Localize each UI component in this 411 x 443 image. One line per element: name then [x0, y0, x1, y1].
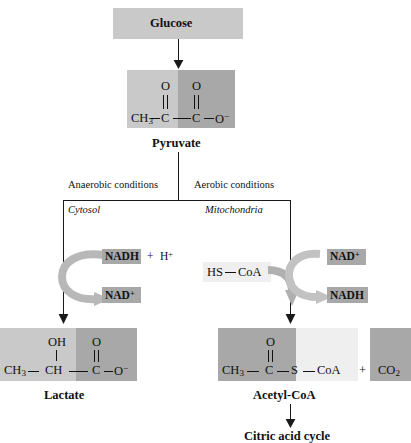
- co2-plus-sign: +: [359, 364, 366, 377]
- acetyl-coa-label: Acetyl-CoA: [253, 389, 315, 402]
- hs-coa-bond: [225, 272, 236, 273]
- nad-left-text: NAD: [105, 289, 130, 301]
- lactate-carboxylate-o: O−: [114, 364, 128, 377]
- pyruvate-c3: C: [192, 112, 200, 125]
- acetyl-coa-methyl-sub: 3: [239, 368, 244, 378]
- citric-acid-cycle-arrowhead: [285, 419, 296, 428]
- lactate-bond-2: [69, 371, 88, 372]
- left-plus-sign: +: [147, 251, 154, 263]
- pyruvate-c2: C: [161, 112, 169, 125]
- acetyl-coa-double-bond-b: [272, 350, 273, 362]
- lactate-o-top: O: [92, 336, 101, 349]
- anaerobic-conditions-label: Anaerobic conditions: [68, 180, 158, 191]
- lactate-c3: C: [92, 364, 100, 377]
- proton-charge: +: [168, 250, 173, 259]
- pyruvate-stem-line: [178, 152, 179, 200]
- glucose-label: Glucose: [150, 17, 192, 30]
- hs-coa-hs: HS: [207, 265, 223, 279]
- lactate-bond-1: [28, 371, 39, 372]
- pyruvate-o-charge: −: [224, 111, 229, 121]
- acetyl-coa-methyl: CH3: [222, 364, 244, 378]
- pyruvate-label: Pyruvate: [152, 137, 201, 150]
- lactate-double-bond-a: [94, 350, 95, 362]
- lactate-hydroxyl: OH: [48, 336, 66, 349]
- lactate-label: Lactate: [44, 389, 84, 402]
- acetyl-coa-bond-2: [277, 371, 289, 372]
- pyruvate-double-bond-right-b: [198, 95, 199, 109]
- pyruvate-double-bond-left-b: [167, 95, 168, 109]
- pyruvate-bond-3: [204, 118, 214, 119]
- proton-label: H+: [160, 251, 173, 263]
- cytosol-label: Cytosol: [68, 205, 100, 216]
- nad-left-label: NAD+: [105, 290, 135, 302]
- lactate-methyl-c: CH: [4, 363, 21, 377]
- pathway-diagram: Glucose O O CH3 C C O− Pyruvate Anaerobi…: [0, 0, 411, 443]
- lactate-c2: CH: [45, 364, 62, 377]
- lactate-methyl: CH3: [4, 364, 26, 378]
- aerobic-conditions-label: Aerobic conditions: [194, 180, 274, 191]
- hs-coa-label: HS: [207, 266, 223, 279]
- lactate-o-term: O: [114, 364, 123, 378]
- hs-coa-tail: CoA: [238, 266, 262, 279]
- lactate-o-charge: −: [123, 363, 128, 373]
- branch-left-drop: [63, 200, 64, 214]
- acetyl-coa-bond-1: [247, 371, 259, 372]
- branch-right-drop: [290, 200, 291, 214]
- lactate-oh-bond: [56, 350, 57, 361]
- nadh-left-label: NADH: [105, 251, 139, 263]
- citric-acid-cycle-label: Citric acid cycle: [244, 430, 330, 443]
- acetyl-coa-o-top: O: [266, 336, 275, 349]
- acetyl-coa-double-bond-a: [268, 350, 269, 362]
- nad-right-text: NAD: [330, 250, 355, 262]
- co2-sub: 2: [395, 368, 400, 378]
- acetyl-coa-sulfur: S: [291, 364, 298, 377]
- acetyl-coa-coa: CoA: [317, 364, 341, 377]
- acetyl-coa-arrowhead: [285, 314, 296, 324]
- pyruvate-methyl-c: CH: [131, 111, 148, 125]
- acetyl-coa-methyl-c: CH: [222, 363, 239, 377]
- pyruvate-double-bond-left-a: [163, 95, 164, 109]
- mitochondria-label: Mitochondria: [205, 205, 263, 216]
- co2-text: CO: [378, 363, 395, 377]
- nad-left-charge: +: [130, 289, 135, 298]
- nad-right-label: NAD+: [330, 251, 360, 263]
- lactate-bond-3: [104, 371, 113, 372]
- acetyl-coa-bond-3: [303, 371, 315, 372]
- pyruvate-carboxylate-o: O−: [215, 112, 229, 125]
- pyruvate-o-top-right: O: [192, 80, 201, 93]
- lactate-methyl-sub: 3: [21, 368, 26, 378]
- pyruvate-bond-2: [173, 118, 191, 119]
- pyruvate-o-top-left: O: [161, 80, 170, 93]
- acetyl-coa-c2: C: [265, 364, 273, 377]
- pyruvate-double-bond-right-a: [194, 95, 195, 109]
- glucose-to-pyruvate-arrowhead: [173, 60, 184, 69]
- pyruvate-bond-1: [150, 118, 160, 119]
- nadh-right-label: NADH: [330, 290, 364, 302]
- nad-right-charge: +: [355, 250, 360, 259]
- branch-horizontal-line: [63, 200, 291, 201]
- lactate-double-bond-b: [98, 350, 99, 362]
- pyruvate-o-term: O: [215, 112, 224, 126]
- co2-label: CO2: [378, 364, 400, 378]
- lactate-arrowhead: [58, 314, 69, 324]
